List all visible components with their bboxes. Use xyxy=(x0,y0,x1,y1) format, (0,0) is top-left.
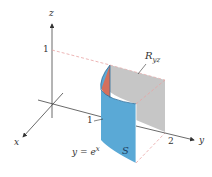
curve-equation-label: y = ex xyxy=(72,146,100,157)
leader-ryz xyxy=(138,64,146,74)
z-tick-label: 1 xyxy=(43,45,49,54)
x-tick-label: 1 xyxy=(87,116,93,125)
region-ryz-label: Ryz xyxy=(145,51,160,61)
dashed-bottom xyxy=(136,133,165,163)
y-axis-label: y xyxy=(199,136,204,145)
surface-s-label: S xyxy=(122,146,129,156)
diagram: z 1 x 1 2 y Ryz S y = ex xyxy=(0,0,212,177)
dashed-line-z1 xyxy=(52,50,110,65)
y-tick-label: 2 xyxy=(168,137,174,146)
x-axis-label: x xyxy=(14,138,19,147)
z-axis-label: z xyxy=(49,9,54,18)
diagram-graphic xyxy=(0,0,212,177)
x-axis xyxy=(23,93,63,137)
